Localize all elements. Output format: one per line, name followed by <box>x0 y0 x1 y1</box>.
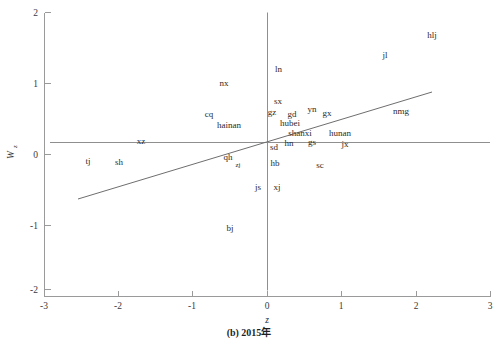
point-label-gs: gs <box>308 137 317 147</box>
point-label-hubei: hubei <box>280 118 300 128</box>
figure-caption: (b) 2015年 <box>227 326 272 338</box>
y-axis-title: W <box>6 150 16 159</box>
point-label-gx: gx <box>323 108 333 118</box>
axis-titles: z W z <box>6 145 269 325</box>
y-axis-ticks <box>45 13 51 290</box>
x-axis-tick-labels: -3 -2 -1 0 1 2 3 <box>40 301 493 311</box>
point-label-yn: yn <box>308 104 318 114</box>
point-label-sc: sc <box>316 160 324 170</box>
y-axis-tick-labels: 2 1 0 -1 -2 <box>30 8 38 295</box>
point-label-sh: sh <box>115 157 124 167</box>
point-label-hb: hb <box>271 158 281 168</box>
y-tick-label-2: 2 <box>33 8 38 18</box>
point-label-jl: jl <box>381 50 388 60</box>
x-axis-title: z <box>264 315 269 325</box>
data-point-labels: hlj jl ln nx cq hainan nmg sx gz gd yn g… <box>85 30 436 233</box>
x-tick-label-neg2: -2 <box>114 301 122 311</box>
point-label-nx: nx <box>220 78 230 88</box>
x-tick-label-0: 0 <box>265 301 270 311</box>
point-label-jx: jx <box>340 139 349 149</box>
x-tick-label-3: 3 <box>488 301 493 311</box>
plot-canvas: 2 1 0 -1 -2 -3 -2 -1 0 1 2 3 <box>0 0 497 338</box>
x-tick-label-2: 2 <box>414 301 419 311</box>
point-label-qh: qh <box>224 152 234 162</box>
point-label-sd: sd <box>270 142 279 152</box>
point-label-xz: xz <box>137 136 146 146</box>
point-label-gz: gz <box>268 107 277 117</box>
x-tick-label-neg1: -1 <box>188 301 196 311</box>
point-label-ln: ln <box>275 64 283 74</box>
point-label-xj: xj <box>273 182 280 192</box>
point-label-hn: hn <box>285 138 295 148</box>
y-tick-label-neg1: -1 <box>30 221 38 231</box>
scatter-plot-figure: 2 1 0 -1 -2 -3 -2 -1 0 1 2 3 <box>0 0 497 338</box>
point-label-hunan: hunan <box>329 128 351 138</box>
point-label-hlj: hlj <box>427 30 437 40</box>
point-label-zj: zj <box>235 161 240 169</box>
point-label-hainan: hainan <box>217 120 241 130</box>
y-tick-label-neg2: -2 <box>30 285 38 295</box>
point-label-cq: cq <box>205 109 214 119</box>
x-tick-label-neg3: -3 <box>40 301 48 311</box>
y-tick-label-0: 0 <box>33 150 38 160</box>
y-axis-title-subscript: z <box>11 145 19 149</box>
point-label-bj: bj <box>226 223 233 233</box>
point-label-js: js <box>254 182 262 192</box>
point-label-tj: tj <box>85 156 90 166</box>
x-tick-label-1: 1 <box>339 301 344 311</box>
x-axis-ticks <box>45 291 491 297</box>
point-label-sx: sx <box>274 96 283 106</box>
y-tick-label-1: 1 <box>33 79 38 89</box>
point-label-nmg: nmg <box>393 106 410 116</box>
